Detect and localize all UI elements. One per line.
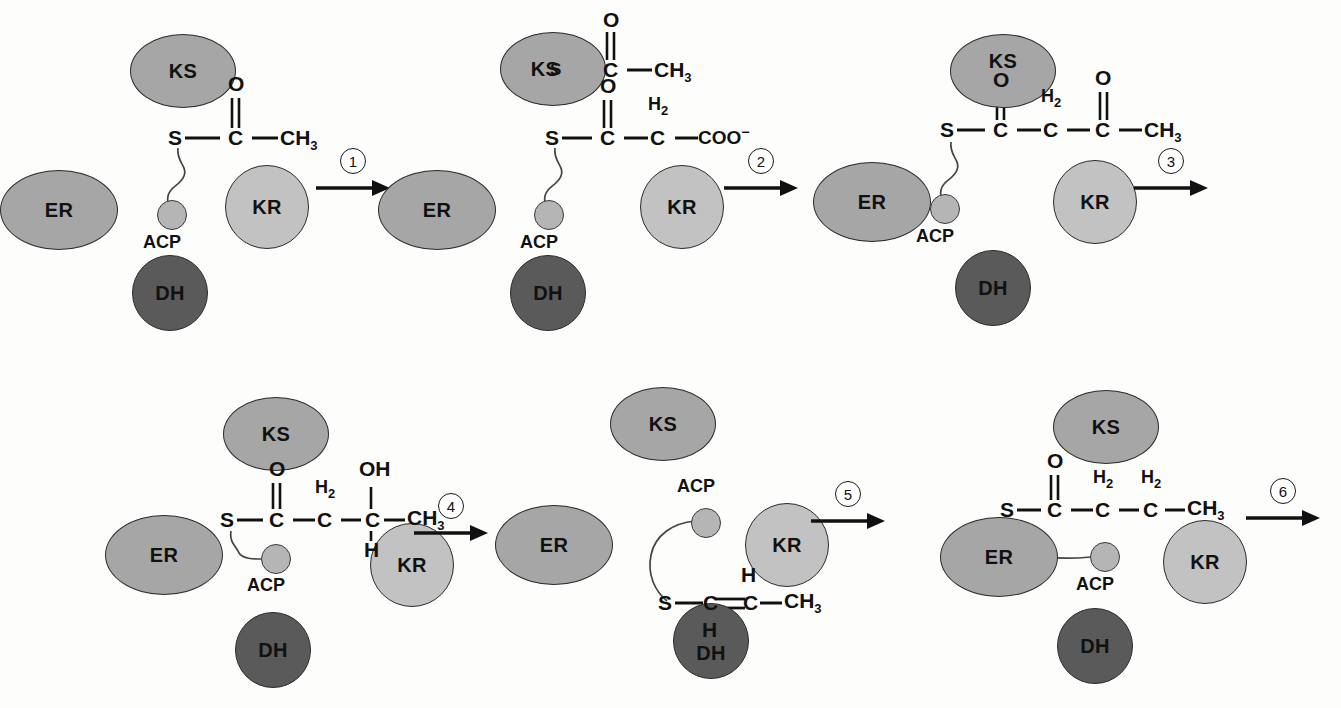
- atom-o-carbonyl-2: O: [1095, 66, 1111, 90]
- atom-c2: C: [1043, 118, 1058, 142]
- methylene-h2-second-main: H: [1141, 467, 1154, 487]
- enzyme-kr[interactable]: KR: [1163, 520, 1247, 604]
- methylene-h2-main: H: [648, 94, 661, 114]
- terminal-methyl-main: CH: [1187, 496, 1217, 519]
- enzyme-ks-label: KS: [649, 413, 677, 436]
- enzyme-er[interactable]: ER: [0, 170, 118, 250]
- atom-c3: C: [1143, 498, 1158, 522]
- acp-ball[interactable]: [157, 200, 187, 230]
- enzyme-ks[interactable]: KS: [610, 387, 716, 461]
- enzyme-ks[interactable]: KS: [130, 34, 236, 108]
- acp-ball[interactable]: [930, 194, 960, 224]
- atom-c3: C: [1095, 118, 1110, 142]
- fatty-acid-synthase-diagram: KS ER KR DH ACP S O C CH3 1: [0, 0, 1341, 708]
- acp-label: ACP: [1076, 574, 1114, 595]
- step-number-4: 4: [438, 493, 464, 519]
- step-number-5: 5: [835, 481, 861, 507]
- methylene-h2-first-sub: 2: [1106, 476, 1113, 491]
- atom-s: S: [1000, 498, 1014, 522]
- carboxylate-charge: −: [741, 124, 749, 140]
- carboxylate: COO−: [698, 124, 749, 149]
- step-number-1: 1: [340, 148, 366, 174]
- enzyme-dh[interactable]: DH: [955, 250, 1031, 326]
- atom-c2-acp: C: [650, 126, 665, 150]
- acp-label: ACP: [143, 232, 181, 253]
- enzyme-er-label: ER: [45, 199, 73, 222]
- methylene-h2-sub: 2: [661, 103, 668, 118]
- ks-terminal-methyl-sub: 3: [684, 70, 691, 85]
- enzyme-dh[interactable]: DH: [510, 255, 586, 331]
- enzyme-er[interactable]: ER: [378, 170, 496, 250]
- enzyme-dh[interactable]: DH: [1057, 608, 1133, 684]
- atom-o-ks-carbonyl: O: [603, 8, 619, 32]
- enzyme-kr[interactable]: KR: [640, 165, 724, 249]
- methylene-h2-main: H: [315, 477, 328, 497]
- atom-s: S: [220, 508, 234, 532]
- atom-c2: C: [317, 508, 332, 532]
- enzyme-er[interactable]: ER: [813, 162, 931, 242]
- ks-terminal-methyl-main: CH: [654, 58, 684, 81]
- enzyme-er-label: ER: [540, 534, 568, 557]
- acp-label: ACP: [677, 476, 715, 497]
- enzyme-dh-label: DH: [533, 282, 563, 305]
- terminal-methyl-sub: 3: [814, 601, 821, 616]
- methylene-h2-sub: 2: [328, 486, 335, 501]
- atom-c1: C: [703, 591, 718, 615]
- ks-terminal-methyl: CH3: [654, 58, 692, 85]
- enzyme-kr-label: KR: [1080, 191, 1110, 214]
- enzyme-ks[interactable]: KS: [1053, 390, 1159, 464]
- enzyme-er[interactable]: ER: [940, 517, 1058, 597]
- enzyme-kr-label: KR: [667, 196, 697, 219]
- enzyme-ks-label: KS: [1092, 416, 1120, 439]
- step-number-6: 6: [1270, 478, 1296, 504]
- atom-s-ks: S: [550, 60, 561, 80]
- enzyme-er-label: ER: [985, 546, 1013, 569]
- enzyme-er[interactable]: ER: [105, 515, 223, 595]
- hydroxyl-group: OH: [359, 457, 391, 481]
- enzyme-ks-label: KS: [262, 423, 290, 446]
- enzyme-dh-label: DH: [155, 282, 185, 305]
- atom-c2: C: [1095, 498, 1110, 522]
- enzyme-er[interactable]: ER: [495, 505, 613, 585]
- enzyme-kr-label: KR: [252, 196, 282, 219]
- acp-ball[interactable]: [691, 508, 721, 538]
- atom-c1: C: [1047, 498, 1062, 522]
- enzyme-dh[interactable]: DH: [235, 612, 311, 688]
- enzyme-er-label: ER: [150, 544, 178, 567]
- methylene-h2-main: H: [1041, 86, 1054, 106]
- step-arrow-6: 6: [1240, 480, 1330, 550]
- terminal-methyl-main: CH: [280, 126, 310, 149]
- enzyme-kr[interactable]: KR: [225, 165, 309, 249]
- acp-ball[interactable]: [534, 200, 564, 230]
- terminal-methyl-sub: 3: [1174, 130, 1181, 145]
- terminal-methyl: CH3: [784, 589, 822, 616]
- atom-c1: C: [993, 118, 1008, 142]
- terminal-methyl-sub: 3: [1217, 508, 1224, 523]
- acp-label: ACP: [247, 575, 285, 596]
- atom-o-carbonyl-1: O: [993, 68, 1009, 92]
- acp-ball[interactable]: [261, 544, 291, 574]
- step-number-3: 3: [1158, 148, 1184, 174]
- atom-h-c1: H: [702, 618, 717, 642]
- acp-ball[interactable]: [1090, 542, 1120, 572]
- acp-label: ACP: [520, 232, 558, 253]
- methylene-h2-second: H2: [1141, 467, 1161, 491]
- methylene-h2-second-sub: 2: [1154, 476, 1161, 491]
- atom-c3: C: [365, 508, 380, 532]
- atom-s-acp: S: [545, 126, 559, 150]
- atom-c2: C: [743, 591, 758, 615]
- atom-s: S: [940, 118, 954, 142]
- panel-crotonyl-acp: KS ER KR DH ACP S C H H C CH3: [555, 375, 955, 705]
- enzyme-kr[interactable]: KR: [1053, 160, 1137, 244]
- atom-s: S: [168, 126, 182, 150]
- enzyme-dh-label: DH: [696, 642, 726, 665]
- step-arrow-5: 5: [805, 483, 895, 553]
- atom-o-acp-carbonyl: O: [600, 74, 616, 98]
- enzyme-kr-label: KR: [772, 534, 802, 557]
- atom-s: S: [658, 591, 672, 615]
- enzyme-dh[interactable]: DH: [132, 255, 208, 331]
- step-arrow-3: 3: [1128, 150, 1218, 220]
- enzyme-dh-label: DH: [258, 639, 288, 662]
- terminal-methyl: CH3: [1187, 496, 1225, 523]
- atom-o-carbonyl: O: [228, 72, 244, 96]
